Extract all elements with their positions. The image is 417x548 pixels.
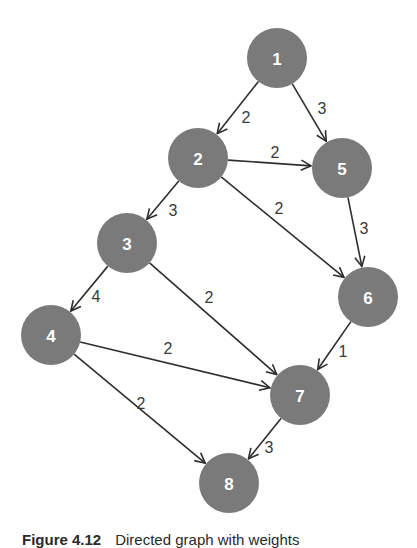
edge-weight: 1 bbox=[339, 343, 348, 360]
edge-weight: 3 bbox=[265, 439, 274, 456]
nodes-layer: 12345678 bbox=[21, 28, 398, 513]
edge-weight: 2 bbox=[205, 289, 214, 306]
edge-weight: 2 bbox=[242, 109, 251, 126]
node-label: 5 bbox=[337, 160, 346, 179]
edge-4-7: 2 bbox=[80, 340, 270, 388]
figure-caption: Figure 4.12Directed graph with weights bbox=[22, 531, 299, 548]
edge-5-6: 3 bbox=[348, 197, 369, 266]
node-6: 6 bbox=[338, 267, 398, 327]
edge-7-8: 3 bbox=[248, 418, 281, 459]
node-3: 3 bbox=[97, 213, 157, 273]
node-label: 8 bbox=[224, 475, 233, 494]
edge-arrow bbox=[150, 263, 277, 375]
node-5: 5 bbox=[312, 138, 372, 198]
edge-weight: 2 bbox=[271, 144, 280, 161]
node-4: 4 bbox=[21, 305, 81, 365]
node-label: 6 bbox=[363, 289, 372, 308]
edge-weight: 2 bbox=[164, 340, 173, 357]
edge-weight: 3 bbox=[318, 100, 327, 117]
caption-label: Figure 4.12 bbox=[22, 531, 101, 548]
node-label: 7 bbox=[295, 387, 304, 406]
edge-1-2: 2 bbox=[217, 82, 258, 134]
edge-arrow bbox=[228, 160, 311, 166]
edge-weight: 4 bbox=[92, 288, 101, 305]
edge-2-5: 2 bbox=[228, 144, 311, 166]
edge-2-3: 3 bbox=[147, 181, 179, 219]
edge-3-7: 2 bbox=[150, 263, 277, 375]
edge-arrow bbox=[217, 82, 258, 134]
node-7: 7 bbox=[270, 365, 330, 425]
node-label: 2 bbox=[193, 150, 202, 169]
node-label: 3 bbox=[122, 235, 131, 254]
edge-weight: 3 bbox=[360, 220, 369, 237]
edge-weight: 2 bbox=[275, 200, 284, 217]
edge-arrow bbox=[71, 266, 108, 311]
node-label: 4 bbox=[46, 327, 56, 346]
node-8: 8 bbox=[199, 453, 259, 513]
node-1: 1 bbox=[247, 28, 307, 88]
edge-3-4: 4 bbox=[71, 266, 108, 311]
edge-weight: 3 bbox=[169, 202, 178, 219]
edge-weight: 2 bbox=[137, 395, 146, 412]
edge-1-5: 3 bbox=[292, 84, 326, 141]
edge-6-7: 1 bbox=[318, 322, 351, 370]
caption-text: Directed graph with weights bbox=[115, 531, 299, 548]
edge-arrow bbox=[80, 342, 270, 388]
edge-4-8: 2 bbox=[74, 354, 205, 463]
node-2: 2 bbox=[168, 128, 228, 188]
node-label: 1 bbox=[272, 50, 281, 69]
